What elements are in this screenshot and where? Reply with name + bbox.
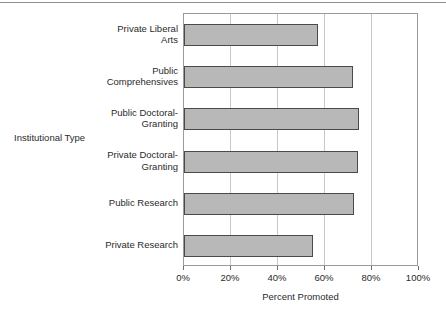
x-axis-tick [230, 266, 231, 270]
bar[interactable] [184, 193, 354, 215]
bar[interactable] [184, 235, 313, 257]
x-gridline [324, 14, 325, 265]
bar-row [184, 24, 417, 46]
bar[interactable] [184, 151, 358, 173]
y-axis-category-label: Private Liberal Arts [28, 23, 178, 46]
x-axis-tick [277, 266, 278, 270]
bar-row [184, 66, 417, 88]
x-gridline [230, 14, 231, 265]
x-axis-tick-label: 40% [267, 272, 286, 283]
x-axis-tick-label: 0% [176, 272, 190, 283]
y-axis-category-label: Private Research [28, 239, 178, 251]
x-axis-tick [183, 266, 184, 270]
bar[interactable] [184, 24, 318, 46]
x-axis-title: Percent Promoted [183, 291, 418, 302]
plot-area [183, 13, 418, 266]
x-axis-tick-label: 60% [314, 272, 333, 283]
x-axis-tick [324, 266, 325, 270]
bar-row [184, 108, 417, 130]
x-axis-tick-label: 20% [220, 272, 239, 283]
y-axis-category-label: Public Comprehensives [28, 65, 178, 88]
y-axis-title: Institutional Type [14, 132, 85, 143]
bar-row [184, 235, 417, 257]
x-axis-tick-label: 100% [406, 272, 430, 283]
x-axis-tick [418, 266, 419, 270]
bar[interactable] [184, 108, 359, 130]
bar-row [184, 151, 417, 173]
x-axis-tick [371, 266, 372, 270]
x-axis-tick-label: 80% [361, 272, 380, 283]
y-axis-category-label: Public Research [28, 197, 178, 209]
y-axis-category-label: Public Doctoral- Granting [28, 107, 178, 130]
x-gridline [371, 14, 372, 265]
y-axis-category-label: Private Doctoral- Granting [28, 149, 178, 172]
bar-chart-figure: Institutional Type Percent Promoted Priv… [0, 0, 446, 316]
bar[interactable] [184, 66, 353, 88]
x-gridline [277, 14, 278, 265]
bar-row [184, 193, 417, 215]
